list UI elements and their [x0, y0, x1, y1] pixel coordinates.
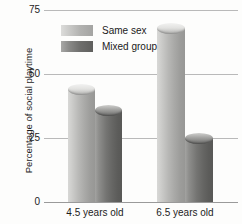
- x-tick-label-4-5-years: 4.5 years old: [50, 207, 140, 218]
- y-axis-tick-labels: 75 50 25 0: [0, 0, 40, 224]
- bar-top-cap: [68, 84, 95, 95]
- bar-top-cap: [95, 105, 122, 116]
- gridline-50: [44, 74, 238, 75]
- gridline-75: [44, 10, 238, 11]
- y-tick-label-75: 75: [14, 4, 40, 15]
- bar-chart: Percentage of social playtime 75 50 25 0: [0, 0, 242, 224]
- bar-same-sex-4-5-years: [68, 84, 95, 202]
- legend-swatch-icon-same-sex: [61, 25, 93, 36]
- bar-same-sex-6-5-years: [157, 23, 185, 202]
- legend-swatch-icon-mixed-group: [61, 41, 93, 52]
- legend-item-same-sex: Same sex: [61, 23, 157, 37]
- bar-body: [185, 138, 213, 202]
- bar-top-cap: [157, 23, 185, 34]
- bar-top-cap: [185, 133, 213, 144]
- bar-body: [68, 89, 95, 202]
- legend-label-same-sex: Same sex: [102, 25, 146, 36]
- y-tick-label-25: 25: [14, 132, 40, 143]
- chart-legend: Same sex Mixed group: [61, 23, 157, 55]
- legend-label-mixed-group: Mixed group: [102, 41, 157, 52]
- legend-item-mixed-group: Mixed group: [61, 39, 157, 53]
- y-tick-label-50: 50: [14, 68, 40, 79]
- axis-baseline-0: [44, 202, 238, 203]
- x-tick-label-6-5-years: 6.5 years old: [140, 207, 230, 218]
- bar-body: [157, 28, 185, 202]
- bar-mixed-group-4-5-years: [95, 105, 122, 202]
- bar-body: [95, 110, 122, 202]
- bar-mixed-group-6-5-years: [185, 133, 213, 202]
- y-tick-label-0: 0: [14, 196, 40, 207]
